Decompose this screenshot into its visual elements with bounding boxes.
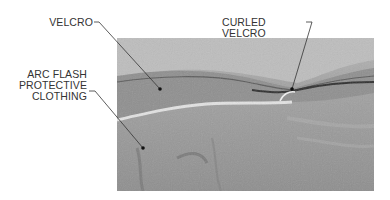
curled-velcro-label: CURLED VELCRO	[222, 17, 312, 39]
clothing-photo	[117, 38, 374, 191]
arc-flash-label-line-3: CLOTHING	[10, 91, 87, 102]
figure: VELCRO CURLED VELCRO ARC FLASH PROTECTIV…	[0, 0, 390, 200]
velcro-label: VELCRO	[40, 17, 93, 28]
